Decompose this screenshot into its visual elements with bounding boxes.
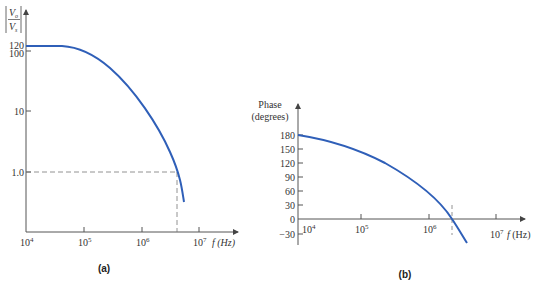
svg-text:−30: −30 [279,229,295,240]
x-ticks: 104 105 106 107 f (Hz) [302,214,531,241]
svg-text:Vo: Vo [9,7,18,19]
svg-text:105: 105 [355,223,369,235]
svg-text:106: 106 [136,236,150,248]
y-ticks: 180 150 120 90 60 30 0 −30 [279,130,303,240]
svg-text:120: 120 [280,158,295,169]
svg-text:106: 106 [423,223,437,235]
svg-text:0: 0 [290,214,295,225]
svg-text:107: 107 [193,236,207,248]
y-ticks: 120 100 10 1.0 [9,40,31,178]
x-axis-label: f (Hz) [507,229,531,241]
svg-text:90: 90 [285,172,295,183]
panel-label-a: (a) [98,263,110,274]
svg-text:100: 100 [9,48,24,59]
svg-text:107: 107 [490,228,504,240]
x-axis-label: f (Hz) [212,237,236,249]
svg-text:104: 104 [302,223,316,235]
svg-text:104: 104 [20,236,34,248]
magnitude-chart: Vo Vs 120 100 10 1.0 104 105 106 107 [6,6,238,274]
svg-text:1.0: 1.0 [12,167,25,178]
svg-text:180: 180 [280,130,295,141]
phase-curve [298,135,467,243]
figure: Vo Vs 120 100 10 1.0 104 105 106 107 [0,0,537,286]
svg-text:30: 30 [285,200,295,211]
y-axis-label-line1: Phase [258,99,282,110]
y-axis-label-line2: (degrees) [251,111,288,123]
svg-text:Vs: Vs [9,21,18,33]
magnitude-curve [26,46,184,202]
svg-text:105: 105 [78,236,92,248]
svg-text:60: 60 [285,186,295,197]
phase-chart: Phase (degrees) 180 150 120 90 60 30 0 −… [251,99,530,280]
y-axis-label: Vo Vs [6,6,21,33]
x-ticks: 104 105 106 107 f (Hz) [20,227,236,249]
panel-label-b: (b) [399,269,412,280]
svg-text:10: 10 [14,106,24,117]
svg-text:150: 150 [280,144,295,155]
